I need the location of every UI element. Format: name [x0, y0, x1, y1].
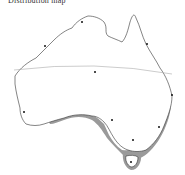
- city-marker: [171, 94, 173, 96]
- city-marker: [132, 139, 134, 141]
- city-marker: [158, 126, 160, 128]
- city-marker: [130, 161, 132, 163]
- australia-outline: [15, 15, 172, 151]
- city-marker: [94, 71, 96, 73]
- city-marker: [44, 45, 46, 47]
- australia-map: [0, 0, 185, 175]
- city-marker: [81, 21, 83, 23]
- city-marker: [146, 43, 148, 45]
- city-marker: [23, 111, 25, 113]
- city-marker: [111, 119, 113, 121]
